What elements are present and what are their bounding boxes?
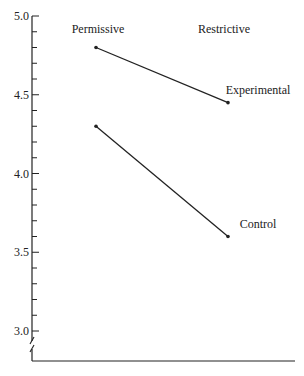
- series-label: Experimental: [226, 83, 291, 97]
- y-tick-label: 3.0: [14, 324, 29, 338]
- y-tick-label: 5.0: [14, 9, 29, 23]
- series-line: [96, 126, 228, 236]
- series-experimental: Experimental: [94, 46, 291, 105]
- y-tick-label: 3.5: [14, 245, 29, 259]
- data-point: [94, 124, 98, 128]
- series-control: Control: [94, 124, 277, 238]
- data-point: [94, 46, 98, 50]
- series-label: Control: [240, 217, 277, 231]
- y-tick-label: 4.0: [14, 167, 29, 181]
- line-chart: 3.03.54.04.55.0 PermissiveRestrictive Ex…: [0, 0, 304, 376]
- y-tick-label: 4.5: [14, 88, 29, 102]
- category-label-permissive: Permissive: [72, 22, 125, 36]
- series-line: [96, 48, 228, 103]
- data-series: ExperimentalControl: [94, 46, 291, 239]
- data-point: [226, 235, 230, 239]
- data-point: [226, 101, 230, 105]
- axes: [30, 16, 295, 361]
- y-axis-ticks: 3.03.54.04.55.0: [14, 9, 39, 338]
- category-labels: PermissiveRestrictive: [72, 22, 250, 36]
- category-label-restrictive: Restrictive: [198, 22, 250, 36]
